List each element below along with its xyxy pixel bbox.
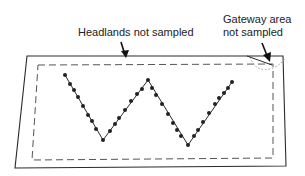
sample-point — [90, 119, 94, 123]
sample-point — [101, 138, 105, 142]
sample-point — [186, 143, 190, 147]
gateway-label-line2: not sampled — [223, 26, 291, 39]
field-outer-boundary — [15, 56, 286, 168]
sample-point — [81, 104, 85, 108]
sample-point — [213, 102, 217, 106]
sample-point — [135, 92, 139, 96]
sample-point — [113, 122, 117, 126]
sample-point — [123, 108, 127, 112]
sample-point — [196, 128, 200, 132]
sample-point — [76, 95, 80, 99]
sample-point — [108, 129, 112, 133]
gateway-label: Gateway area not sampled — [223, 13, 291, 39]
gateway-arrow-icon — [262, 43, 271, 62]
sample-point — [63, 73, 67, 77]
sample-point — [166, 112, 170, 116]
sample-point — [129, 99, 133, 103]
sample-point — [117, 116, 121, 120]
sample-point — [175, 128, 179, 132]
sample-point — [222, 91, 226, 95]
sample-point — [226, 86, 230, 90]
sampling-area-dashed-boundary — [32, 64, 273, 160]
sample-point — [68, 82, 72, 86]
sample-point — [192, 134, 196, 138]
w-sampling-path — [65, 75, 232, 145]
sample-point — [154, 93, 158, 97]
sample-point — [230, 80, 234, 84]
sample-point — [160, 102, 164, 106]
sample-point — [146, 78, 150, 82]
sample-points — [63, 73, 234, 147]
sample-point — [171, 121, 175, 125]
sample-point — [201, 120, 205, 124]
sample-point — [94, 127, 98, 131]
sample-point — [72, 88, 76, 92]
sample-point — [150, 86, 154, 90]
sample-point — [217, 96, 221, 100]
gateway-label-line1: Gateway area — [223, 13, 291, 26]
sample-point — [86, 113, 90, 117]
sample-point — [207, 111, 211, 115]
sample-point — [140, 87, 144, 91]
headlands-label: Headlands not sampled — [78, 26, 194, 39]
sample-point — [179, 134, 183, 138]
